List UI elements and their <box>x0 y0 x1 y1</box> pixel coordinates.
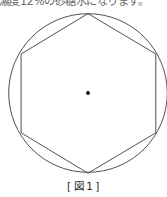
figure-page: 濃度12%の砂糖水になります。 [図1] <box>0 0 167 197</box>
figure-caption: [図1] <box>0 180 167 193</box>
caption-number: 1 <box>86 180 93 193</box>
caption-close-bracket: ] <box>95 180 100 193</box>
caption-open-bracket: [ <box>67 180 72 193</box>
figure-svg <box>0 8 167 180</box>
cropped-body-text: 濃度12%の砂糖水になります。 <box>0 0 148 8</box>
center-point-dot <box>86 91 90 95</box>
figure-diagram <box>0 8 167 180</box>
caption-label: 図 <box>74 180 85 193</box>
